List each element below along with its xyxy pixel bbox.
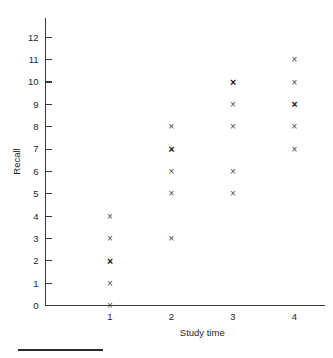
y-tick-label-12: 12 [28,32,39,43]
y-axis-group: 0123456789101112 Recall [11,18,52,311]
data-point-x3-y6: × [230,166,236,177]
data-point-x1-y3: × [107,233,113,244]
data-point-x1-y1: × [107,278,113,289]
data-point-x2-y3: × [169,233,175,244]
x-tick-label-3: 3 [230,311,235,322]
data-point-x2-y7: × [168,143,174,155]
data-point-x3-y8: × [230,121,236,132]
data-point-x4-y9: × [291,98,297,110]
y-tick-label-11: 11 [29,54,39,65]
y-tick-label-7: 7 [33,143,38,154]
data-point-x4-y10: × [292,77,298,88]
x-tick-group: 1234 [107,311,297,322]
x-axis-group: 1234 Study time [46,306,326,338]
y-tick-label-4: 4 [33,211,38,222]
y-tick-label-5: 5 [33,188,38,199]
y-tick-label-6: 6 [33,166,38,177]
chart-canvas: 0123456789101112 Recall 1234 Study time … [0,0,333,358]
x-tick-label-1: 1 [107,311,112,322]
data-point-x2-y6: × [169,166,175,177]
x-tick-label-4: 4 [292,311,297,322]
data-point-x4-y8: × [292,121,298,132]
data-point-x3-y5: × [230,188,236,199]
y-tick-label-8: 8 [33,121,38,132]
data-point-x1-y4: × [107,211,113,222]
data-point-x4-y11: × [292,54,298,65]
y-axis-title: Recall [11,148,22,174]
x-tick-label-2: 2 [169,311,174,322]
y-tick-group: 0123456789101112 [28,32,52,311]
data-point-x1-y0: × [107,300,113,311]
data-point-x2-y5: × [169,188,175,199]
data-point-x4-y7: × [292,144,298,155]
y-tick-label-10: 10 [28,76,39,87]
data-point-x3-y10: × [230,76,236,88]
y-tick-label-9: 9 [33,99,38,110]
data-point-x2-y8: × [169,121,175,132]
data-point-x1-y2: × [107,255,113,267]
y-tick-label-1: 1 [33,278,38,289]
data-points-layer: ×××××××××××××××××××× [107,54,298,311]
scatter-chart: 0123456789101112 Recall 1234 Study time … [0,0,333,358]
y-tick-label-0: 0 [33,300,38,311]
x-axis-title: Study time [180,327,225,338]
y-tick-label-3: 3 [33,233,38,244]
y-tick-label-2: 2 [33,255,38,266]
data-point-x3-y9: × [230,99,236,110]
